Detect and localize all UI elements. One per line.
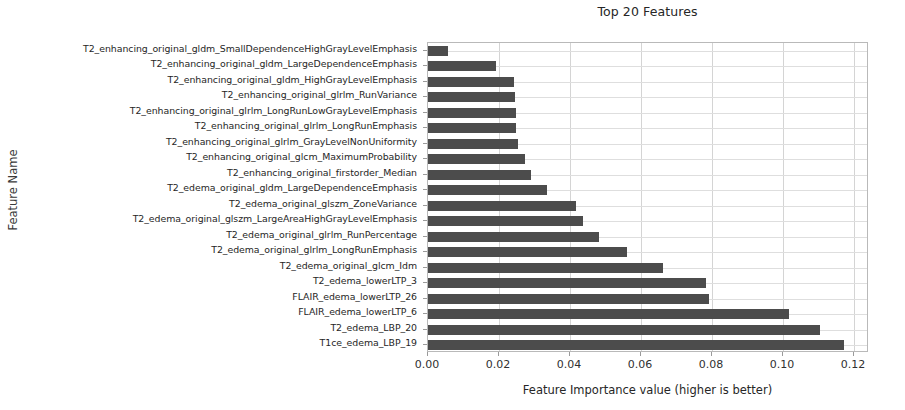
bar: [428, 77, 514, 87]
y-axis-tick-mark: [423, 81, 427, 82]
y-axis-tick-label: T2_enhancing_original_glrlm_GrayLevelNon…: [0, 136, 422, 147]
y-axis-tick-mark: [423, 329, 427, 330]
y-axis-tick-label: FLAIR_edema_lowerLTP_26: [0, 291, 422, 302]
x-axis-label: Feature Importance value (higher is bett…: [427, 383, 868, 397]
x-axis-tick-label: 0.04: [544, 358, 594, 371]
y-axis-tick-mark: [423, 298, 427, 299]
chart-title: Top 20 Features: [427, 4, 868, 19]
y-axis-tick-label: T2_edema_original_glrlm_RunPercentage: [0, 229, 422, 240]
y-axis-tick-label: T2_edema_original_gldm_LargeDependenceEm…: [0, 182, 422, 193]
gridline-vertical: [712, 43, 713, 351]
y-axis-tick-label: T2_enhancing_original_glrlm_LongRunLowGr…: [0, 105, 422, 116]
x-axis-tick-mark: [711, 352, 712, 356]
y-axis-tick-mark: [423, 189, 427, 190]
bar: [428, 201, 576, 211]
y-axis-tick-label: FLAIR_edema_lowerLTP_6: [0, 306, 422, 317]
y-axis-tick-mark: [423, 127, 427, 128]
y-axis-tick-label: T2_edema_LBP_20: [0, 322, 422, 333]
y-axis-tick-label: T2_enhancing_original_gldm_SmallDependen…: [0, 43, 422, 54]
x-axis-tick-mark: [427, 352, 428, 356]
y-axis-tick-mark: [423, 267, 427, 268]
x-axis-tick-mark: [498, 352, 499, 356]
bar: [428, 123, 516, 133]
x-axis-tick-label: 0.00: [402, 358, 452, 371]
y-axis-tick-label: T2_enhancing_original_gldm_HighGrayLevel…: [0, 74, 422, 85]
gridline-vertical: [570, 43, 571, 351]
y-axis-tick-label: T2_edema_lowerLTP_3: [0, 275, 422, 286]
x-axis-tick-mark: [569, 352, 570, 356]
bar: [428, 232, 599, 242]
bar: [428, 263, 663, 273]
x-axis-tick-label: 0.12: [828, 358, 878, 371]
x-axis-tick-mark: [853, 352, 854, 356]
y-axis-tick-label: T2_edema_original_glszm_ZoneVariance: [0, 198, 422, 209]
plot-area: [427, 42, 868, 352]
bar: [428, 170, 531, 180]
y-axis-tick-mark: [423, 143, 427, 144]
y-axis-tick-mark: [423, 174, 427, 175]
gridline-vertical: [499, 43, 500, 351]
gridline-horizontal: [428, 51, 867, 52]
y-axis-tick-mark: [423, 112, 427, 113]
gridline-vertical: [783, 43, 784, 351]
bar: [428, 185, 547, 195]
gridline-vertical: [641, 43, 642, 351]
y-axis-tick-mark: [423, 220, 427, 221]
bar: [428, 46, 448, 56]
bar: [428, 216, 583, 226]
y-axis-tick-label: T2_enhancing_original_firstorder_Median: [0, 167, 422, 178]
bar: [428, 309, 789, 319]
bar: [428, 108, 516, 118]
y-axis-tick-mark: [423, 205, 427, 206]
bar: [428, 61, 496, 71]
y-axis-tick-label: T2_enhancing_original_glrlm_RunVariance: [0, 89, 422, 100]
y-axis-tick-mark: [423, 65, 427, 66]
y-axis-tick-label: T1ce_edema_LBP_19: [0, 337, 422, 348]
y-axis-tick-label: T2_edema_original_glcm_Idm: [0, 260, 422, 271]
x-axis-tick-label: 0.10: [757, 358, 807, 371]
bar: [428, 139, 518, 149]
y-axis-tick-label: T2_enhancing_original_glrlm_LongRunEmpha…: [0, 120, 422, 131]
bar: [428, 340, 844, 350]
bar: [428, 325, 820, 335]
y-axis-tick-label: T2_enhancing_original_glcm_MaximumProbab…: [0, 151, 422, 162]
y-axis-tick-mark: [423, 344, 427, 345]
bar: [428, 92, 515, 102]
y-axis-tick-mark: [423, 282, 427, 283]
y-axis-tick-mark: [423, 96, 427, 97]
bar: [428, 278, 706, 288]
x-axis-tick-mark: [782, 352, 783, 356]
y-axis-tick-label: T2_enhancing_original_gldm_LargeDependen…: [0, 58, 422, 69]
bar: [428, 247, 627, 257]
y-axis-tick-label: T2_edema_original_glszm_LargeAreaHighGra…: [0, 213, 422, 224]
gridline-vertical: [854, 43, 855, 351]
bar-chart-figure: Top 20 Features Feature Name T2_enhancin…: [0, 0, 905, 410]
y-axis-tick-mark: [423, 50, 427, 51]
y-axis-tick-mark: [423, 313, 427, 314]
x-axis-tick-label: 0.02: [473, 358, 523, 371]
bar: [428, 154, 525, 164]
x-axis-tick-label: 0.06: [615, 358, 665, 371]
bar: [428, 294, 709, 304]
x-axis-tick-label: 0.08: [686, 358, 736, 371]
y-axis-tick-mark: [423, 158, 427, 159]
y-axis-tick-mark: [423, 236, 427, 237]
y-axis-tick-label: T2_edema_original_glrlm_LongRunEmphasis: [0, 244, 422, 255]
y-axis-tick-mark: [423, 251, 427, 252]
x-axis-tick-mark: [640, 352, 641, 356]
